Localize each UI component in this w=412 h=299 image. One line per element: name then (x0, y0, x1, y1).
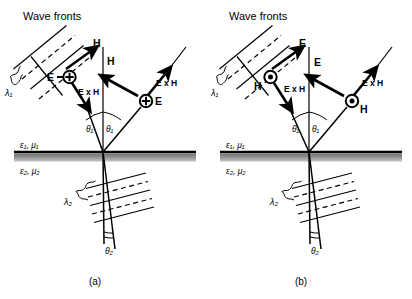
vector-ExH-reflected-label-b: E x H (362, 78, 383, 88)
panel-b: Wave fronts λ₁ E H (206, 0, 412, 299)
arc-theta2-b (310, 232, 319, 233)
vector-ExH-reflected-label-a: E x H (156, 78, 177, 88)
arc-theta1-right-a (103, 112, 121, 120)
lambda2-label-a: λ₂ (63, 197, 72, 207)
vector-E-reflected-b (313, 79, 344, 96)
vector-E-reflected-label-b: E (314, 56, 321, 68)
vector-H-reflected-label-b: H (360, 103, 368, 115)
lambda1-label-b: λ₁ (210, 88, 218, 98)
theta2-label-b: θ₂ (311, 246, 320, 256)
lambda2-brace-a (76, 181, 96, 200)
medium2-label-a: ε₂, μ₂ (20, 166, 40, 176)
circled-dot-reflected-b (346, 95, 358, 107)
panel-a: Wave fronts λ₁ H E (0, 0, 206, 299)
medium1-label-b: ε₁, μ₁ (226, 140, 245, 150)
circled-plus-incident-a (63, 71, 75, 83)
panel-a-title: Wave fronts (23, 10, 82, 22)
vector-E-incident-label-b: E (299, 37, 306, 49)
arc-theta1-right-b (309, 112, 327, 120)
vector-H-incident-label-a: H (93, 37, 101, 49)
vector-H-incident-label-b: H (254, 80, 262, 92)
lambda2-brace-b (282, 181, 302, 200)
theta1-left-label-b: θ₁ (292, 124, 300, 134)
interface-b (220, 152, 402, 162)
theta1-left-label-a: θ₁ (86, 124, 94, 134)
panel-b-title: Wave fronts (229, 10, 288, 22)
vector-H-reflected-label-a: H (107, 55, 115, 67)
theta1-right-label-b: θ₁ (312, 124, 320, 134)
vector-ExH-left-a (107, 79, 138, 96)
panel-b-caption: (b) (295, 276, 307, 287)
lambda1-brace-a (11, 66, 23, 85)
vector-ExH-incident-label-b: E x H (284, 84, 305, 94)
panel-a-caption: (a) (89, 276, 101, 287)
vector-ExH-incident-label-a: E x H (78, 87, 99, 97)
interface-a (14, 152, 196, 162)
arc-theta2-a (104, 232, 113, 233)
medium2-label-b: ε₂, μ₂ (226, 166, 246, 176)
vector-E-reflected-label-a: E (155, 95, 162, 107)
vector-E-incident-label-a: E (47, 71, 54, 83)
medium1-label-a: ε₁, μ₁ (20, 140, 39, 150)
refracted-wavefronts-a (86, 173, 154, 223)
lambda1-label-a: λ₁ (4, 88, 12, 98)
circled-plus-reflected-a (140, 95, 152, 107)
theta1-right-label-a: θ₁ (106, 124, 114, 134)
circled-dot-incident-b (264, 71, 276, 83)
lambda1-brace-b (217, 66, 229, 85)
lambda2-label-b: λ₂ (269, 197, 278, 207)
wave-reflection-refraction-figure: Wave fronts λ₁ H E (0, 0, 412, 299)
refracted-wavefronts-b (292, 173, 360, 223)
theta2-label-a: θ₂ (105, 246, 114, 256)
